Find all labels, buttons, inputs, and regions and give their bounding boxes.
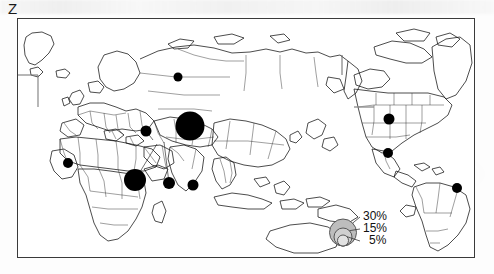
data-bubble: Brazil: 7%	[452, 183, 462, 193]
data-bubble: Pakistan: 8%	[141, 126, 152, 137]
data-bubble: Bangladesh: 9%	[163, 177, 175, 189]
data-bubble: Ethiopia: 17%	[124, 169, 146, 191]
world-map: Russia: 6%India: 30%Pakistan: 8%Nigeria:…	[18, 19, 474, 257]
data-bubble: Indonesia: 8%	[188, 180, 199, 191]
data-bubble: India: 30%	[176, 112, 205, 141]
data-bubble: United States: 8%	[384, 114, 395, 125]
data-bubble-layer: Russia: 6%India: 30%Pakistan: 8%Nigeria:…	[63, 73, 462, 194]
legend-label: 5%	[369, 233, 387, 247]
panel-label: Z	[8, 1, 18, 17]
figure-panel: Z	[0, 0, 494, 274]
map-legend: 30%15%5%30%15%5%	[330, 209, 388, 247]
legend-circle: 5%	[338, 235, 349, 246]
data-bubble: Russia: 6%	[174, 73, 183, 82]
data-bubble: Mexico: 7%	[383, 148, 393, 158]
scan-bleed-artifact	[0, 0, 494, 14]
data-bubble: Nigeria: 7%	[63, 158, 73, 168]
map-frame: Russia: 6%India: 30%Pakistan: 8%Nigeria:…	[17, 18, 475, 258]
